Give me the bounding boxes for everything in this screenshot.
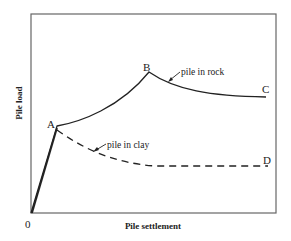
load-settlement-diagram: A B C D 0 pile in rock pile in clay Pile… [0,0,291,241]
initial-linear-segment [32,128,57,213]
x-axis-title: Pile settlement [125,221,181,231]
pile-in-rock-label: pile in rock [181,67,225,77]
origin-label: 0 [25,218,31,230]
point-d-label: D [263,154,271,166]
y-axis-title: Pile load [14,86,24,119]
pile-in-clay-label: pile in clay [107,140,149,150]
point-b-label: B [143,61,150,73]
point-c-label: C [262,83,269,95]
clay-arrow-icon [93,147,99,152]
plot-frame [31,14,276,213]
pile-in-clay-curve [57,130,268,166]
point-a-label: A [47,118,55,130]
